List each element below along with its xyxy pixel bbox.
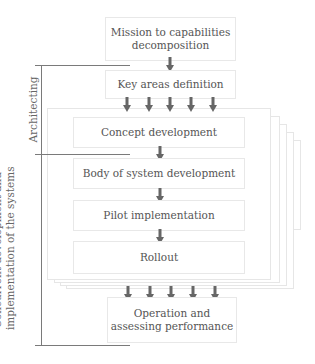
arrow-down-icon	[166, 97, 174, 112]
arrow-down-icon	[209, 97, 217, 112]
concurrent-development-label: Concurrent development and implementatio…	[0, 170, 19, 330]
operation-line2: assessing performance	[111, 320, 233, 333]
arrow-down-icon	[145, 97, 153, 112]
architecting-label: Architecting	[27, 65, 40, 155]
mission-line1: Mission to capabilities	[111, 26, 231, 39]
mission-line2: decomposition	[132, 39, 210, 52]
key-areas-definition-box: Key areas definition	[105, 70, 236, 99]
bracket-vertical-line	[41, 65, 42, 346]
body-of-system-development-label: Body of system development	[83, 167, 236, 180]
rollout-box: Rollout	[73, 241, 245, 274]
pilot-implementation-label: Pilot implementation	[103, 209, 214, 222]
operation-assessing-performance-box: Operation and assessing performance	[107, 297, 237, 343]
arrow-down-icon	[123, 97, 131, 112]
mission-decomposition-box: Mission to capabilities decomposition	[105, 17, 236, 61]
rollout-label: Rollout	[140, 251, 178, 264]
concurrent-line2: implementation of the systems	[4, 170, 17, 330]
bracket-top-tick	[35, 65, 130, 66]
arrow-down-icon	[187, 97, 195, 112]
concept-development-box: Concept development	[73, 117, 245, 148]
bracket-bottom-tick	[35, 345, 130, 346]
operation-line1: Operation and	[134, 307, 211, 320]
bracket-middle-tick	[35, 154, 130, 155]
key-areas-label: Key areas definition	[117, 78, 223, 91]
body-of-system-development-box: Body of system development	[73, 158, 245, 189]
concept-development-label: Concept development	[101, 126, 217, 139]
pilot-implementation-box: Pilot implementation	[73, 200, 245, 231]
